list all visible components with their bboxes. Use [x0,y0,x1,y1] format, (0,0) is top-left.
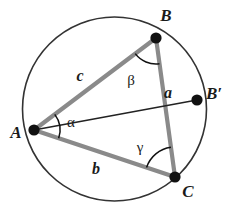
angle-label-beta: β [127,72,135,88]
geometry-diagram: A B C B′ c a b α β γ [0,0,237,215]
vertex-point-c [169,171,180,182]
side-label-b: b [92,160,100,177]
angle-label-gamma: γ [136,139,144,155]
angle-arc-beta [135,54,159,64]
diagram-canvas: A B C B′ c a b α β γ [0,0,237,215]
vertex-point-a [28,124,39,135]
chord-a-bprime [34,100,197,130]
side-label-c: c [76,67,83,84]
vertex-label-b: B [159,6,171,25]
triangle-side-c [34,38,156,130]
angle-arc-gamma [147,147,171,167]
triangle-side-b [34,130,175,177]
vertex-point-b-prime [191,94,202,105]
side-label-a: a [164,84,172,101]
vertex-point-b [150,32,161,43]
vertex-label-c: C [182,182,194,201]
angle-label-alpha: α [67,114,75,130]
vertex-label-a: A [9,123,21,142]
vertex-label-b-prime: B′ [205,84,222,103]
